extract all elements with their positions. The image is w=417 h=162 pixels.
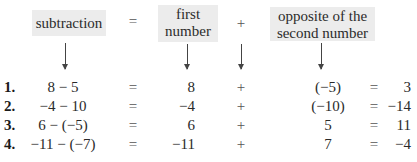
plus-sign: + bbox=[237, 97, 245, 116]
plus-sign: + bbox=[237, 135, 245, 154]
subtraction-label: subtraction bbox=[36, 15, 103, 31]
equals-sign: = bbox=[370, 78, 378, 97]
equals-sign: = bbox=[129, 116, 137, 135]
plus-sign: + bbox=[237, 78, 245, 97]
opposite-label-line2: second number bbox=[270, 25, 375, 42]
down-arrow-icon bbox=[187, 44, 188, 69]
down-arrow-icon bbox=[65, 43, 66, 69]
header-equals-sign: = bbox=[129, 13, 137, 30]
subtraction-expression: 8 − 5 bbox=[48, 78, 79, 97]
opposite-number: (−10) bbox=[311, 97, 344, 116]
result: 3 bbox=[404, 78, 412, 97]
equals-sign: = bbox=[370, 97, 378, 116]
example-row-3: 3. 6 − (−5) = 6 + 5 = 11 bbox=[0, 116, 417, 135]
first-number-label-line2: number bbox=[158, 23, 218, 40]
row-number: 4. bbox=[4, 135, 15, 154]
equals-sign: = bbox=[370, 135, 378, 154]
result: −4 bbox=[395, 135, 411, 154]
equals-sign: = bbox=[370, 116, 378, 135]
row-number: 3. bbox=[4, 116, 15, 135]
first-number: 6 bbox=[188, 116, 196, 135]
down-arrow-icon bbox=[321, 43, 322, 69]
opposite-number: 7 bbox=[324, 135, 332, 154]
down-arrow-icon bbox=[241, 44, 242, 69]
subtraction-expression: −4 − 10 bbox=[40, 97, 87, 116]
header-plus-sign: + bbox=[237, 15, 245, 32]
equals-sign: = bbox=[129, 97, 137, 116]
result: 11 bbox=[397, 116, 411, 135]
first-number: −11 bbox=[172, 135, 195, 154]
first-number: 8 bbox=[188, 78, 196, 97]
example-row-2: 2. −4 − 10 = −4 + (−10) = −14 bbox=[0, 97, 417, 116]
cropped-text-fragment bbox=[6, 155, 116, 162]
first-number-label-box: first number bbox=[158, 5, 218, 42]
equals-sign: = bbox=[129, 78, 137, 97]
subtraction-expression: −11 − (−7) bbox=[31, 135, 96, 154]
opposite-number: 5 bbox=[324, 116, 332, 135]
subtraction-expression: 6 − (−5) bbox=[38, 116, 87, 135]
first-number-label-line1: first bbox=[158, 6, 218, 23]
row-number: 1. bbox=[4, 78, 15, 97]
row-number: 2. bbox=[4, 97, 15, 116]
opposite-label-box: opposite of the second number bbox=[270, 7, 375, 41]
first-number: −4 bbox=[179, 97, 195, 116]
plus-sign: + bbox=[237, 116, 245, 135]
example-row-4: 4. −11 − (−7) = −11 + 7 = −4 bbox=[0, 135, 417, 154]
opposite-number: (−5) bbox=[315, 78, 341, 97]
subtraction-label-box: subtraction bbox=[32, 10, 106, 36]
equals-sign: = bbox=[129, 135, 137, 154]
example-row-1: 1. 8 − 5 = 8 + (−5) = 3 bbox=[0, 78, 417, 97]
result: −14 bbox=[388, 97, 411, 116]
opposite-label-line1: opposite of the bbox=[270, 8, 375, 25]
